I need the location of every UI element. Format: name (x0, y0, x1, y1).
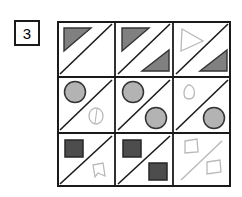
matrix-puzzle-root: 3 (0, 0, 242, 197)
cell-r1c2[interactable] (116, 22, 172, 76)
cell-r2c2-filled-circle-lower (146, 108, 167, 129)
cell-r2c1-filled-circle (65, 82, 86, 103)
matrix-grid (57, 21, 231, 187)
cell-r2c3-filled-circle (204, 108, 225, 129)
cell-r2c2[interactable] (116, 78, 172, 132)
item-number-label: 3 (23, 26, 31, 41)
item-number-box: 3 (14, 20, 40, 46)
cell-r3c2[interactable] (116, 134, 172, 186)
cell-r3c3[interactable] (174, 134, 230, 186)
cell-r2c2-filled-circle-upper (123, 82, 144, 103)
cell-r3c2-filled-square-lower (149, 163, 167, 180)
cell-r1c1[interactable] (58, 22, 114, 76)
cell-r2c3[interactable] (174, 78, 230, 132)
cell-r3c2-filled-square-upper (123, 140, 141, 157)
cell-r3c1-filled-square (65, 140, 83, 157)
matrix-grid-svg (57, 21, 231, 187)
cell-r3c1[interactable] (58, 134, 114, 186)
cell-r1c3[interactable] (174, 22, 230, 76)
cell-r2c1[interactable] (58, 78, 114, 132)
